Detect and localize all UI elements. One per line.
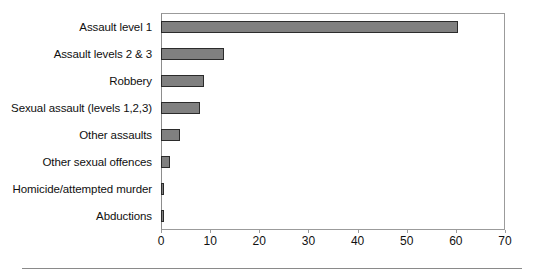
bar bbox=[161, 102, 200, 114]
bars-layer bbox=[161, 13, 505, 230]
category-label: Homicide/attempted murder bbox=[13, 182, 152, 196]
category-label: Assault level 1 bbox=[79, 20, 152, 34]
x-axis-tick-label: 10 bbox=[190, 234, 230, 248]
x-axis-tick-label: 20 bbox=[239, 234, 279, 248]
footer-divider bbox=[22, 268, 522, 269]
x-axis-tick bbox=[407, 230, 408, 233]
category-label: Assault levels 2 & 3 bbox=[54, 47, 152, 61]
x-axis-tick-label: 50 bbox=[387, 234, 427, 248]
x-axis-tick-label: 40 bbox=[338, 234, 378, 248]
x-axis-tick bbox=[210, 230, 211, 233]
bar-chart-figure: Assault level 1 Assault levels 2 & 3 Rob… bbox=[0, 0, 533, 279]
x-axis-tick-label: 0 bbox=[141, 234, 181, 248]
x-axis-tick-labels: 010203040506070 bbox=[0, 234, 533, 252]
x-axis-tick-label: 60 bbox=[436, 234, 476, 248]
x-axis-tick bbox=[161, 230, 162, 233]
bar bbox=[161, 75, 204, 87]
category-label: Other sexual offences bbox=[42, 155, 152, 169]
x-axis-tick-label: 70 bbox=[485, 234, 525, 248]
category-label: Other assaults bbox=[79, 128, 152, 142]
x-axis-tick bbox=[358, 230, 359, 233]
bar bbox=[161, 183, 164, 195]
x-axis-tick bbox=[308, 230, 309, 233]
x-axis-tick-label: 30 bbox=[288, 234, 328, 248]
category-label: Abductions bbox=[96, 209, 152, 223]
category-label: Sexual assault (levels 1,2,3) bbox=[11, 101, 152, 115]
bar bbox=[161, 129, 180, 141]
bar bbox=[161, 48, 224, 60]
bar bbox=[161, 156, 170, 168]
bar bbox=[161, 210, 164, 222]
x-axis-tick bbox=[505, 230, 506, 233]
category-axis: Assault level 1 Assault levels 2 & 3 Rob… bbox=[0, 13, 157, 230]
x-axis-tick bbox=[456, 230, 457, 233]
bar bbox=[161, 21, 458, 33]
category-label: Robbery bbox=[109, 74, 152, 88]
x-axis-tick bbox=[259, 230, 260, 233]
